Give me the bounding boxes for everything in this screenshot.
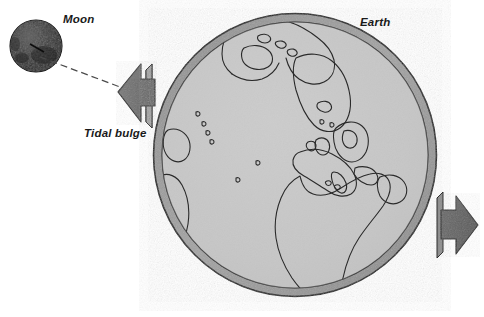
earth-globe bbox=[149, 14, 437, 305]
tidal-bulge-arrow-left bbox=[118, 64, 155, 128]
tidal-bulge-diagram: Moon Earth Tidal bulge bbox=[0, 0, 484, 317]
tidal-bulge-arrow-right bbox=[437, 192, 478, 258]
moon-label: Moon bbox=[63, 13, 94, 25]
tidal-bulge-label: Tidal bulge bbox=[84, 127, 147, 139]
moon-body bbox=[10, 20, 62, 72]
moon-to-bulge-line bbox=[40, 57, 120, 87]
diagram-canvas bbox=[0, 0, 484, 317]
earth-label: Earth bbox=[360, 16, 390, 28]
